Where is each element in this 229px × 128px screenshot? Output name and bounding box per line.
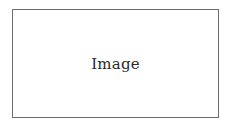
- image-placeholder: Image: [12, 9, 219, 118]
- image-placeholder-label: Image: [91, 55, 140, 73]
